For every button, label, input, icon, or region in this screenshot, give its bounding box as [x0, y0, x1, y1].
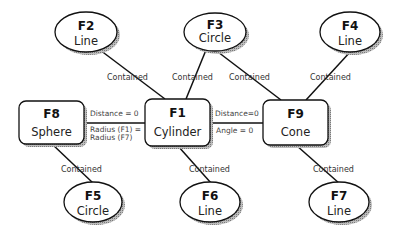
node-f8-type: Sphere	[31, 125, 72, 139]
edge-f8-f5	[52, 144, 93, 183]
edge-label-f9-f7: Contained	[313, 165, 354, 174]
node-f6-type: Line	[198, 204, 222, 218]
node-f1-type: Cylinder	[154, 125, 202, 139]
node-f5-id: F5	[85, 189, 102, 203]
node-f6-id: F6	[202, 189, 219, 203]
relation-angle-f1-f9: Angle = 0	[216, 126, 253, 135]
edge-label-f2-f1: Contained	[107, 73, 148, 82]
edge-label-f1-f6: Contained	[189, 165, 230, 174]
node-f6[interactable]: F6 Line	[180, 182, 243, 225]
node-f8[interactable]: F8 Sphere	[19, 101, 87, 147]
node-f3[interactable]: F3 Circle	[184, 13, 249, 54]
relation-distance-f1-f9: Distance=0	[215, 109, 259, 118]
node-f5-type: Circle	[77, 204, 109, 218]
relation-distance-f8-f1: Distance = 0	[90, 109, 139, 118]
edge-label-f4-f9: Contained	[310, 73, 351, 82]
node-f7[interactable]: F7 Line	[309, 182, 372, 225]
node-f7-type: Line	[327, 204, 351, 218]
node-f1-id: F1	[169, 106, 186, 120]
node-f2-type: Line	[74, 34, 98, 48]
relation-radius-f8-f1-line2: Radius (F7)	[90, 133, 133, 142]
edge-label-f3-f9: Contained	[229, 73, 270, 82]
node-f9-id: F9	[287, 107, 304, 121]
node-f9-type: Cone	[281, 125, 310, 139]
node-f2-id: F2	[78, 19, 95, 33]
node-f7-id: F7	[331, 189, 348, 203]
node-f3-id: F3	[207, 18, 224, 32]
node-f8-id: F8	[43, 107, 60, 121]
node-f4-type: Line	[338, 34, 362, 48]
edge-label-f3-f1: Contained	[172, 73, 213, 82]
node-f2[interactable]: F2 Line	[55, 12, 120, 55]
feature-graph-diagram: Contained Contained Contained Contained …	[0, 0, 409, 235]
node-f4[interactable]: F4 Line	[320, 12, 383, 55]
node-f5[interactable]: F5 Circle	[64, 182, 125, 225]
node-f1[interactable]: F1 Cylinder	[145, 99, 213, 149]
edge-label-f8-f5: Contained	[61, 165, 102, 174]
node-f4-id: F4	[342, 19, 359, 33]
node-f9[interactable]: F9 Cone	[263, 100, 331, 148]
node-f3-type: Circle	[199, 31, 231, 45]
